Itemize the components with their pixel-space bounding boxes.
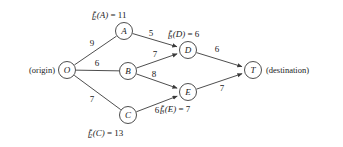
destination-annotation: (destination)	[266, 65, 309, 75]
node-t[interactable]: T	[245, 62, 262, 79]
value-label-d: f3*(D) = 6	[168, 29, 199, 40]
node-label-a: A	[120, 26, 127, 36]
node-c[interactable]: C	[120, 107, 137, 124]
node-b[interactable]: B	[120, 63, 137, 80]
edge-weight-o-a: 9	[90, 38, 95, 48]
edge-weight-e-t: 7	[220, 83, 225, 93]
node-label-e: E	[184, 87, 191, 97]
node-label-b: B	[125, 66, 131, 76]
edge-weight-a-d: 5	[149, 28, 154, 38]
node-label-d: D	[184, 45, 192, 55]
value-label-c: f2*(C) = 13	[88, 128, 123, 139]
node-o[interactable]: O	[59, 62, 76, 79]
origin-annotation: (origin)	[29, 65, 55, 75]
node-label-o: O	[64, 65, 71, 75]
edge-o-c	[74, 75, 121, 109]
value-label-a: f2*(A) = 11	[92, 10, 127, 21]
edge-o-b	[76, 70, 119, 71]
edge-d-t	[197, 53, 242, 67]
edge-weight-d-t: 6	[215, 44, 220, 54]
edge-weight-b-e: 8	[152, 69, 157, 79]
edge-weight-o-c: 7	[90, 94, 95, 104]
node-e[interactable]: E	[180, 84, 197, 101]
node-d[interactable]: D	[180, 42, 197, 59]
value-label-e: f3*(E) = 7	[160, 104, 190, 115]
diagram-canvas: OABCDET 967578667 (origin) (destination)…	[0, 0, 343, 147]
node-a[interactable]: A	[116, 23, 133, 40]
edge-b-e	[136, 74, 177, 88]
edge-weight-o-b: 6	[95, 58, 100, 68]
edge-weight-c-e: 6	[155, 105, 160, 115]
network-graph: OABCDET 967578667 (origin) (destination)	[0, 0, 343, 147]
edge-weight-b-d: 7	[153, 49, 158, 59]
node-label-c: C	[125, 110, 132, 120]
